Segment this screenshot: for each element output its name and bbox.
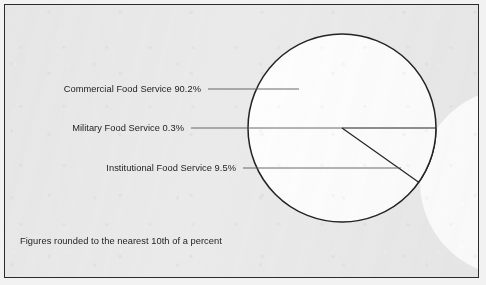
pie-label-commercial: Commercial Food Service 90.2% (64, 84, 201, 94)
pie-chart: Commercial Food Service 90.2% Military F… (5, 5, 479, 278)
figure-frame: Commercial Food Service 90.2% Military F… (4, 4, 479, 278)
scanned-figure-page: Commercial Food Service 90.2% Military F… (0, 0, 486, 285)
pie-label-institutional: Institutional Food Service 9.5% (106, 163, 236, 173)
footnote: Figures rounded to the nearest 10th of a… (20, 236, 222, 246)
pie-label-military: Military Food Service 0.3% (72, 123, 184, 133)
